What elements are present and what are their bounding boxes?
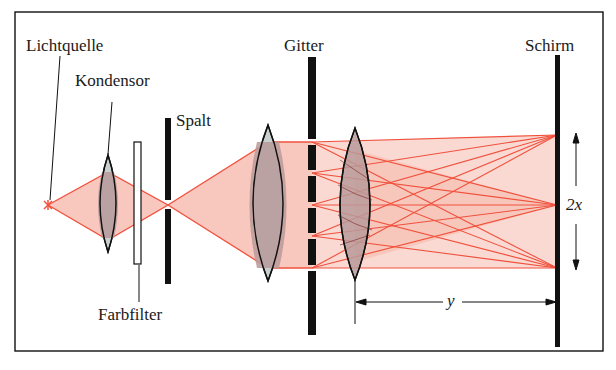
dimension-y-arrow xyxy=(356,299,556,305)
label-condenser: Kondensor xyxy=(75,72,150,89)
label-screen: Schirm xyxy=(525,37,574,54)
label-slit: Spalt xyxy=(176,112,211,129)
diagram-canvas: Lichtquelle Kondensor Spalt Farbfilter G… xyxy=(0,0,616,370)
label-grating: Gitter xyxy=(284,37,324,54)
screen xyxy=(555,55,560,347)
leader-light-source xyxy=(50,56,60,200)
leader-condenser xyxy=(108,102,112,154)
label-2x: 2x xyxy=(566,196,582,213)
label-color-filter: Farbfilter xyxy=(98,306,162,323)
condenser-lens xyxy=(98,155,118,252)
label-y: y xyxy=(447,292,455,309)
color-filter xyxy=(134,142,141,264)
label-light-source: Lichtquelle xyxy=(26,37,103,54)
grating xyxy=(308,57,316,335)
slit xyxy=(165,118,171,284)
